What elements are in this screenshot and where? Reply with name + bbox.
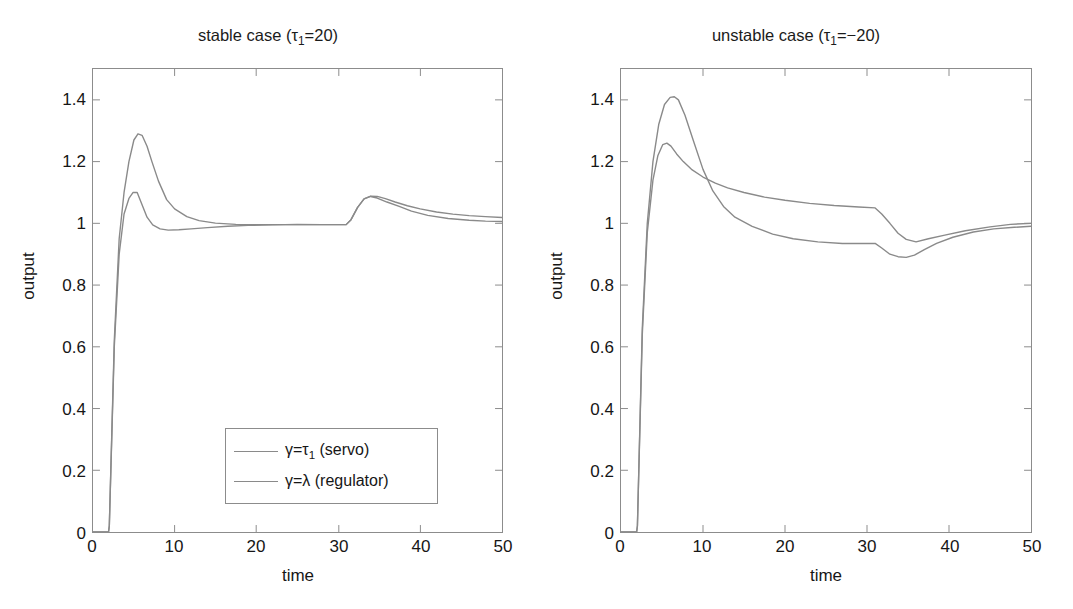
- legend-line-icon: [234, 451, 278, 452]
- y-tick-5: 1: [568, 215, 614, 232]
- panel-title-unstable: unstable case (τ1=−20): [528, 26, 1064, 48]
- x-tick-5: 50: [1007, 538, 1057, 555]
- x-tick-0: 0: [595, 538, 645, 555]
- y-tick-7: 1.4: [568, 91, 614, 108]
- y-tick-6: 1.2: [40, 153, 86, 170]
- legend-line-icon: [234, 481, 278, 482]
- legend-label-regulator: γ=λ (regulator): [285, 472, 389, 490]
- x-tick-4: 40: [925, 538, 975, 555]
- y-tick-5: 1: [40, 215, 86, 232]
- title-suffix: =20): [305, 26, 338, 44]
- title-prefix: stable case (: [198, 26, 292, 44]
- plot-svg-unstable: [621, 69, 1031, 532]
- legend-entry-servo: γ=τ1 (servo): [234, 436, 427, 466]
- legend-entry-regulator: γ=λ (regulator): [234, 466, 427, 496]
- tick-marks-right: [621, 69, 1031, 532]
- y-tick-3: 0.6: [40, 339, 86, 356]
- y-tick-1: 0.2: [568, 463, 614, 480]
- x-tick-1: 10: [149, 538, 199, 555]
- legend-label-servo: γ=τ1 (servo): [285, 441, 369, 461]
- title-prefix: unstable case (: [712, 26, 824, 44]
- y-tick-1: 0.2: [40, 463, 86, 480]
- x-tick-5: 50: [478, 538, 528, 555]
- y-tick-2: 0.4: [40, 401, 86, 418]
- panel-stable-case: stable case (τ1=20) output 0 0.2 0.4 0.6…: [0, 0, 536, 609]
- x-tick-2: 20: [760, 538, 810, 555]
- y-tick-7: 1.4: [40, 91, 86, 108]
- x-axis-label-right: time: [620, 566, 1032, 586]
- legend-stable: γ=τ1 (servo) γ=λ (regulator): [225, 428, 438, 504]
- x-tick-labels-left: 0 10 20 30 40 50: [92, 538, 504, 566]
- series-regulator-unstable: [621, 143, 1031, 532]
- x-tick-3: 30: [314, 538, 364, 555]
- series-servo-unstable: [621, 97, 1031, 532]
- y-tick-4: 0.8: [40, 277, 86, 294]
- y-tick-2: 0.4: [568, 401, 614, 418]
- x-tick-4: 40: [396, 538, 446, 555]
- panel-title-stable: stable case (τ1=20): [0, 26, 536, 48]
- x-tick-2: 20: [231, 538, 281, 555]
- x-tick-3: 30: [842, 538, 892, 555]
- x-tick-0: 0: [67, 538, 117, 555]
- y-tick-3: 0.6: [568, 339, 614, 356]
- x-tick-1: 10: [677, 538, 727, 555]
- title-subscript: 1: [830, 34, 837, 48]
- title-subscript: 1: [298, 34, 305, 48]
- x-tick-labels-right: 0 10 20 30 40 50: [620, 538, 1032, 566]
- y-tick-labels-right: 0 0.2 0.4 0.6 0.8 1 1.2 1.4: [564, 68, 614, 533]
- plot-area-unstable: [620, 68, 1032, 533]
- panel-unstable-case: unstable case (τ1=−20) output 0 0.2 0.4 …: [528, 0, 1064, 609]
- y-tick-6: 1.2: [568, 153, 614, 170]
- y-tick-4: 0.8: [568, 277, 614, 294]
- title-suffix: =−20): [837, 26, 880, 44]
- y-tick-labels-left: 0 0.2 0.4 0.6 0.8 1 1.2 1.4: [36, 68, 86, 533]
- x-axis-label-left: time: [92, 566, 504, 586]
